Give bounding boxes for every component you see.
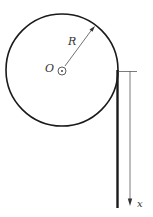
x-axis-arrow — [128, 72, 132, 207]
pulley-diagram: R O x — [0, 0, 153, 217]
pulley-circle — [6, 14, 118, 126]
center-label: O — [45, 62, 54, 75]
radius-label: R — [67, 35, 76, 48]
axle-dot — [61, 70, 63, 72]
axis-label: x — [137, 198, 143, 209]
